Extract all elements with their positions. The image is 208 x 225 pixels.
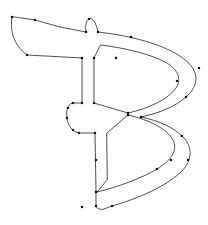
anchor-point-stem-waist-upper-left[interactable] [81, 102, 83, 104]
anchor-point-lower-outer-top[interactable] [140, 116, 142, 118]
anchor-point-upper-outer-top[interactable] [130, 36, 132, 38]
anchor-point-top-bump-left-base[interactable] [85, 31, 87, 33]
anchor-point-waist-lobe-upper-left[interactable] [67, 107, 69, 109]
anchor-point-upper-counter-top[interactable] [115, 57, 117, 59]
anchor-point-stem-top-right[interactable] [93, 57, 95, 59]
upper-counter [94, 45, 179, 113]
anchor-point-lower-counter-right-extreme[interactable] [170, 159, 172, 161]
anchor-point-stem-waist-lower-left[interactable] [78, 132, 80, 134]
glyph-canvas [0, 0, 208, 225]
anchor-point-upper-outer-right-extreme[interactable] [198, 67, 200, 69]
anchor-point-waist-lobe-top[interactable] [72, 102, 74, 104]
anchor-point-upper-counter-right-extreme[interactable] [176, 80, 178, 82]
anchor-point-top-bump-apex[interactable] [88, 18, 90, 20]
anchor-point-lower-counter-bottom-right[interactable] [156, 168, 158, 170]
glyph-outline-svg [0, 0, 208, 225]
anchor-point-lower-counter-top-right[interactable] [127, 114, 129, 116]
anchor-point-upper-counter-bottom-left[interactable] [93, 102, 95, 104]
anchor-point-top-edge-left[interactable] [34, 19, 36, 21]
lower-counter [97, 115, 175, 192]
anchor-point-upper-outer-lower-right[interactable] [185, 96, 187, 98]
anchor-point-top-left-terminal[interactable] [11, 16, 13, 18]
anchor-point-waist-lobe-bottom[interactable] [72, 129, 74, 131]
anchor-point-lower-outer-right-extreme[interactable] [187, 159, 189, 161]
anchor-point-upper-waist-right[interactable] [127, 112, 129, 114]
anchor-point-lower-counter-top-left[interactable] [94, 132, 96, 134]
anchor-point-stem-foot-left[interactable] [81, 206, 83, 208]
anchor-point-left-terminal-bottom[interactable] [26, 54, 28, 56]
anchor-point-lower-outer-upper-right[interactable] [181, 135, 183, 137]
anchor-point-lower-outer-bottom[interactable] [111, 205, 113, 207]
anchor-point-stem-top-left[interactable] [81, 57, 83, 59]
anchor-point-stem-foot-right[interactable] [95, 205, 97, 207]
anchor-point-top-bump-right-base[interactable] [97, 31, 99, 33]
outer-contour [11, 17, 195, 209]
contour-group [11, 17, 195, 209]
anchor-point-waist-lobe-left-extreme[interactable] [66, 117, 68, 119]
anchor-point-lower-counter-bottom-left[interactable] [95, 191, 97, 193]
anchor-point-stem-lower-mid[interactable] [95, 159, 97, 161]
